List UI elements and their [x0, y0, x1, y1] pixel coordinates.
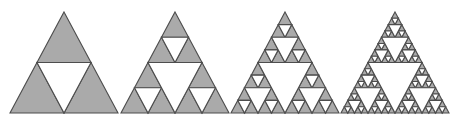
sierpinski-figure: Stage 1Stage 2Stage 3Stage 4	[0, 0, 450, 126]
sierpinski-diagram-canvas: Stage 1Stage 2Stage 3Stage 4	[0, 0, 450, 126]
